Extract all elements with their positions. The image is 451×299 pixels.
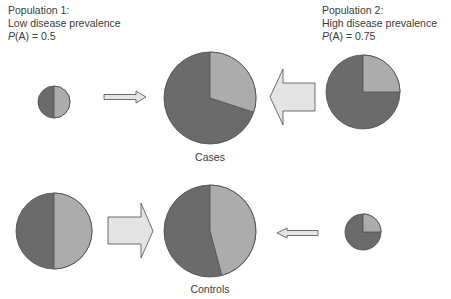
arrow-right-thin-icon: [104, 91, 146, 103]
arrow-left-thin-icon: [277, 228, 318, 238]
pie-pop2-cases: [326, 55, 400, 129]
pie-cases-combined: [164, 52, 256, 144]
pie-pop2-controls: [345, 214, 381, 250]
pie-controls-combined: [164, 185, 256, 277]
diagram-canvas: [0, 0, 451, 299]
arrow-right-thick-icon: [108, 203, 153, 258]
arrow-left-thick-icon: [270, 69, 315, 125]
pie-pop1-controls: [16, 193, 92, 269]
cases-caption: Cases: [195, 151, 225, 163]
controls-caption: Controls: [190, 283, 229, 295]
pie-pop1-cases: [38, 86, 70, 118]
